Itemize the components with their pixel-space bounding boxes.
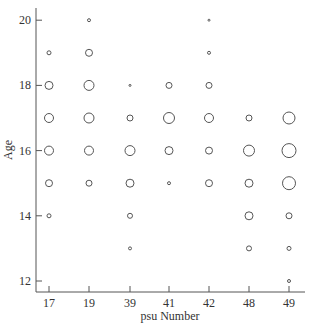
bubble-point <box>245 179 253 187</box>
bubble-point <box>206 180 213 187</box>
bubble-point <box>129 84 131 86</box>
bubble-point <box>286 213 292 219</box>
bubble-point <box>245 212 253 220</box>
x-axis-ticks: 17193941424849 <box>43 286 295 310</box>
bubble-point <box>206 82 212 88</box>
bubble-point <box>84 113 94 123</box>
bubble-point <box>244 145 255 156</box>
bubble-point <box>125 146 135 156</box>
bubble-point <box>208 51 211 54</box>
x-tick-label: 17 <box>43 296 55 310</box>
bubble-point <box>206 147 213 154</box>
x-axis-title: psu Number <box>141 309 200 323</box>
y-tick-label: 20 <box>19 13 31 27</box>
x-tick-label: 39 <box>124 296 136 310</box>
bubble-point <box>47 214 51 218</box>
bubble-point <box>288 280 291 283</box>
y-tick-label: 18 <box>19 78 31 92</box>
bubble-point <box>165 147 173 155</box>
bubbles <box>45 19 297 283</box>
bubble-point <box>85 146 94 155</box>
bubble-point <box>282 144 296 158</box>
bubble-point <box>168 182 171 185</box>
x-tick-label: 49 <box>283 296 295 310</box>
bubble-point <box>287 246 291 250</box>
bubble-point <box>283 112 295 124</box>
x-tick-label: 48 <box>243 296 255 310</box>
bubble-point <box>86 49 93 56</box>
bubble-point <box>88 19 91 22</box>
bubble-point <box>45 81 53 89</box>
bubble-point <box>208 19 210 21</box>
bubble-point <box>46 180 53 187</box>
bubble-point <box>129 247 132 250</box>
axes <box>36 8 305 292</box>
bubble-point <box>45 114 54 123</box>
bubble-chart: 1214161820 17193941424849 psu Number Age <box>0 0 315 328</box>
y-axis-ticks: 1214161820 <box>19 13 42 288</box>
bubble-point <box>84 80 94 90</box>
bubble-point <box>247 246 252 251</box>
bubble-point <box>128 213 133 218</box>
bubble-point <box>283 177 296 190</box>
x-tick-label: 41 <box>163 296 175 310</box>
y-tick-label: 16 <box>19 144 31 158</box>
bubble-point <box>45 146 54 155</box>
bubble-point <box>205 114 214 123</box>
y-axis-title: Age <box>1 140 15 160</box>
bubble-point <box>166 82 172 88</box>
bubble-point <box>86 180 92 186</box>
y-tick-label: 14 <box>19 209 31 223</box>
y-tick-label: 12 <box>19 274 31 288</box>
bubble-point <box>47 51 51 55</box>
bubble-point <box>127 115 133 121</box>
bubble-point <box>126 179 134 187</box>
x-tick-label: 42 <box>203 296 215 310</box>
bubble-point <box>164 113 175 124</box>
bubble-point <box>246 115 252 121</box>
x-tick-label: 19 <box>83 296 95 310</box>
